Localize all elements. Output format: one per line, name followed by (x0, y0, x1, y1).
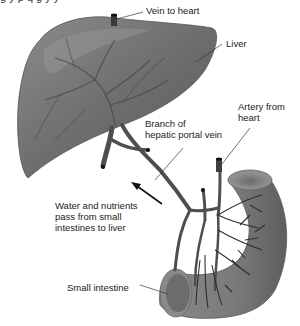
label-artery-from-heart: Artery from heart (238, 101, 285, 123)
label-liver: Liver (226, 38, 247, 49)
label-vein-to-heart: Vein to heart (146, 5, 199, 16)
cut-off-caption: g y p q g y y (0, 0, 59, 3)
liver-organ (18, 14, 217, 179)
hepatic-portal-diagram (0, 0, 300, 326)
label-branch-hepatic-portal-vein: Branch of hepatic portal vein (145, 118, 222, 140)
label-small-intestine: Small intestine (67, 282, 129, 293)
label-water-nutrients: Water and nutrients pass from small inte… (55, 200, 138, 233)
